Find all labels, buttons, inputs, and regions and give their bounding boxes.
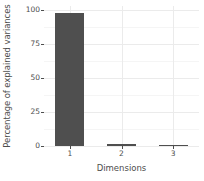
gridline-major-vertical: [122, 6, 123, 146]
y-axis-title-text: Percentage of explained variances: [2, 4, 12, 147]
x-axis-tick-label: 3: [158, 150, 188, 158]
plot-panel: [44, 6, 199, 146]
bar: [55, 13, 84, 146]
y-axis-tick-label: 25: [14, 108, 40, 116]
y-axis-tick-mark: [41, 146, 44, 147]
scree-plot-figure: Percentage of explained variances 025507…: [0, 0, 204, 181]
x-axis-tick-label: 2: [107, 150, 137, 158]
y-axis-tick-label: 50: [14, 74, 40, 82]
y-axis-tick-mark: [41, 78, 44, 79]
y-axis-tick-label: 0: [14, 142, 40, 150]
y-axis-tick-mark: [41, 112, 44, 113]
y-axis-tick-label: 75: [14, 40, 40, 48]
x-axis-title: Dimensions: [44, 163, 199, 173]
y-axis-tick-mark: [41, 10, 44, 11]
y-axis-tick-labels: 0255075100: [12, 0, 40, 181]
y-axis-tick-mark: [41, 44, 44, 45]
gridline-major-vertical: [173, 6, 174, 146]
y-axis-tick-label: 100: [14, 6, 40, 14]
x-axis-tick-label: 1: [55, 150, 85, 158]
